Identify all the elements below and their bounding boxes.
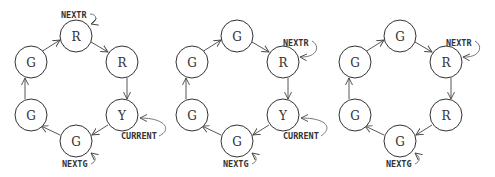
current-label: CURRENT	[283, 131, 319, 141]
node-2: Y	[267, 99, 299, 131]
diagram-2: G R Y G G G NEXTR CURRENT NEXTG	[176, 20, 327, 169]
edge-arrow	[202, 40, 221, 52]
node-0: G	[384, 20, 416, 52]
edge-arrow	[92, 125, 108, 135]
svg-text:G: G	[395, 30, 405, 44]
node-0: G	[221, 20, 253, 52]
svg-text:G: G	[26, 109, 36, 123]
node-1: R	[106, 46, 138, 78]
node-2: Y	[106, 99, 138, 131]
svg-text:R: R	[278, 56, 288, 70]
svg-text:G: G	[26, 56, 36, 70]
edge-arrow	[253, 125, 269, 135]
node-3: G	[384, 125, 416, 157]
svg-text:Y: Y	[117, 109, 127, 123]
svg-text:Y: Y	[278, 109, 288, 123]
svg-text:R: R	[117, 56, 127, 70]
edge-arrow	[252, 42, 269, 52]
diagram-3: G R R G G G NEXTR NEXTG	[339, 20, 480, 169]
edge-arrow	[202, 126, 221, 135]
node-1: R	[267, 46, 299, 78]
node-4: G	[15, 99, 47, 131]
node-2: R	[430, 99, 462, 131]
svg-text:G: G	[395, 135, 405, 149]
nextg-pointer-arrow	[91, 153, 95, 164]
edge-arrow	[365, 40, 384, 52]
svg-text:G: G	[232, 30, 242, 44]
current-label: CURRENT	[121, 131, 157, 141]
node-4: G	[176, 99, 208, 131]
svg-text:G: G	[187, 109, 197, 123]
node-3: G	[60, 125, 92, 157]
svg-text:G: G	[232, 135, 242, 149]
node-5: G	[339, 46, 371, 78]
node-3: G	[221, 125, 253, 157]
nextr-label: NEXTR	[61, 10, 87, 20]
nextg-label: NEXTG	[62, 159, 88, 169]
node-5: G	[15, 46, 47, 78]
edge-arrow	[415, 42, 432, 52]
svg-text:R: R	[441, 109, 451, 123]
nextg-pointer-arrow	[252, 153, 256, 164]
svg-text:G: G	[350, 56, 360, 70]
edge-arrow	[365, 126, 384, 135]
nextg-label: NEXTG	[386, 159, 412, 169]
nextr-label: NEXTR	[446, 38, 472, 48]
node-1: R	[430, 46, 462, 78]
nextg-label: NEXTG	[223, 159, 249, 169]
edge-arrow	[91, 42, 108, 52]
ring-buffer-diagrams: R R Y G G G NEXTR CURRENT NEXTG G R Y G …	[0, 0, 495, 177]
nextr-label: NEXTR	[283, 38, 309, 48]
svg-text:R: R	[441, 56, 451, 70]
svg-text:R: R	[71, 30, 81, 44]
node-4: G	[339, 99, 371, 131]
node-0: R	[60, 20, 92, 52]
svg-text:G: G	[187, 56, 197, 70]
node-5: G	[176, 46, 208, 78]
diagram-1: R R Y G G G NEXTR CURRENT NEXTG	[15, 10, 166, 169]
nextg-pointer-arrow	[415, 153, 419, 164]
edge-arrow	[41, 126, 60, 135]
edge-arrow	[41, 40, 60, 52]
edge-arrow	[416, 125, 432, 135]
svg-text:G: G	[350, 109, 360, 123]
svg-text:G: G	[71, 135, 81, 149]
nextr-pointer-arrow	[90, 14, 96, 24]
